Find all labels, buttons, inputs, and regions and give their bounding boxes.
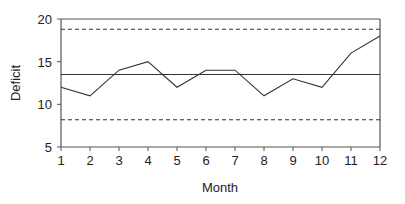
x-tick-label: 4: [144, 153, 151, 168]
x-tick-label: 5: [173, 153, 180, 168]
control-chart: 5101520 123456789101112 Month Deficit: [0, 0, 405, 204]
y-axis-ticks: 5101520: [38, 12, 61, 155]
x-tick-label: 8: [260, 153, 267, 168]
x-tick-label: 11: [344, 153, 358, 168]
plot-frame: [61, 19, 380, 147]
x-tick-label: 7: [231, 153, 238, 168]
x-tick-label: 9: [289, 153, 296, 168]
x-axis-title: Month: [202, 180, 238, 195]
x-axis-ticks: 123456789101112: [57, 147, 387, 168]
data-series: [61, 36, 380, 96]
y-tick-label: 20: [38, 12, 52, 27]
y-tick-label: 15: [38, 55, 52, 70]
x-tick-label: 2: [86, 153, 93, 168]
x-tick-label: 6: [202, 153, 209, 168]
x-tick-label: 1: [57, 153, 64, 168]
x-tick-label: 10: [315, 153, 329, 168]
reference-lines: [61, 29, 380, 119]
x-tick-label: 3: [115, 153, 122, 168]
y-tick-label: 5: [45, 140, 52, 155]
x-tick-label: 12: [373, 153, 387, 168]
y-axis-title: Deficit: [8, 65, 23, 102]
deficit-line: [61, 36, 380, 96]
chart-canvas: 5101520 123456789101112 Month Deficit: [0, 0, 405, 204]
y-tick-label: 10: [38, 97, 52, 112]
